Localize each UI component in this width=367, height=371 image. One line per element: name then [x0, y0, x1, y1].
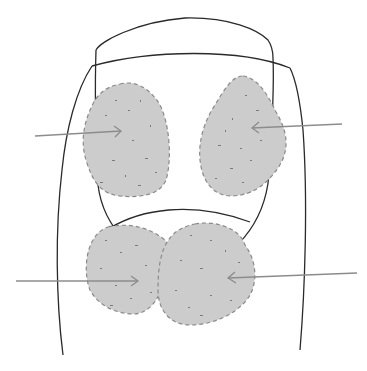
region-upper-left [83, 83, 169, 197]
region-lower-left [86, 225, 170, 314]
fingernail-diagram [0, 0, 367, 371]
shaded-regions [83, 76, 286, 325]
region-lower-right [158, 223, 255, 325]
